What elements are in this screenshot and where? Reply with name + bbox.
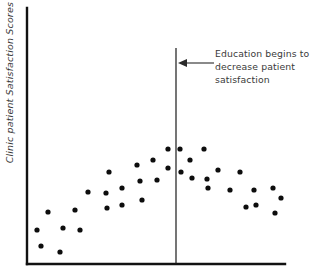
data-point — [205, 185, 210, 190]
data-point — [134, 162, 139, 167]
annotation-line-2: decrease patient — [215, 60, 317, 73]
data-point — [119, 185, 124, 190]
data-point — [251, 187, 256, 192]
data-point — [104, 205, 109, 210]
plot-canvas — [0, 0, 318, 272]
data-point — [165, 165, 170, 170]
data-point — [137, 178, 142, 183]
data-point — [139, 197, 144, 202]
data-point — [150, 157, 155, 162]
data-point — [227, 187, 232, 192]
annotation-arrow-head — [178, 59, 187, 67]
data-point — [278, 195, 283, 200]
annotation-label: Education begins to decrease patient sat… — [215, 47, 317, 87]
data-point — [189, 175, 194, 180]
data-point — [34, 227, 39, 232]
data-points-group — [34, 146, 283, 254]
data-point — [85, 189, 90, 194]
data-point — [45, 209, 50, 214]
data-point — [243, 204, 248, 209]
annotation-line-3: satisfaction — [215, 73, 317, 86]
data-point — [57, 249, 62, 254]
data-point — [201, 146, 206, 151]
data-point — [165, 146, 170, 151]
annotation-arrow-group — [178, 59, 214, 67]
data-point — [270, 185, 275, 190]
data-point — [103, 190, 108, 195]
data-point — [154, 177, 159, 182]
data-point — [204, 176, 209, 181]
data-point — [106, 169, 111, 174]
data-point — [60, 225, 65, 230]
data-point — [119, 202, 124, 207]
data-point — [253, 202, 258, 207]
data-point — [272, 210, 277, 215]
data-point — [187, 157, 192, 162]
data-point — [215, 167, 220, 172]
data-point — [177, 146, 182, 151]
annotation-line-1: Education begins to — [215, 47, 317, 60]
data-point — [77, 227, 82, 232]
data-point — [72, 207, 77, 212]
data-point — [237, 169, 242, 174]
data-point — [38, 243, 43, 248]
scatter-plot-figure: Clinic patient Satisfaction Scores Educa… — [0, 0, 318, 272]
data-point — [178, 169, 183, 174]
